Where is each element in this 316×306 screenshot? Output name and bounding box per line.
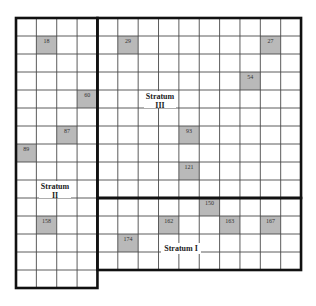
sampled-cell-number: 158 [42, 218, 51, 224]
stratified-grid-diagram: 1829275460879389121150158162163167174Str… [0, 0, 316, 306]
stratum-2-numeral: II [52, 191, 58, 200]
sampled-cell-number: 93 [186, 128, 192, 134]
grid-lines [16, 18, 301, 288]
sampled-cell-number: 162 [164, 218, 173, 224]
sampled-cell-number: 150 [205, 200, 214, 206]
stratum-1-label: Stratum I [164, 244, 198, 253]
sampled-cell-number: 54 [247, 74, 253, 80]
sampled-cell-number: 29 [125, 38, 131, 44]
sampled-cell-number: 89 [23, 146, 29, 152]
stratum-3-numeral: III [155, 101, 164, 110]
sampled-cell-number: 60 [84, 92, 90, 98]
sampled-cell-number: 121 [185, 164, 194, 170]
sampled-cell-number: 18 [44, 38, 50, 44]
sampled-cell-number: 167 [266, 218, 275, 224]
sampled-cell-number: 163 [225, 218, 234, 224]
sampled-cell-number: 27 [268, 38, 274, 44]
sampled-cell-number: 174 [123, 236, 132, 242]
sampled-cell-number: 87 [64, 128, 70, 134]
